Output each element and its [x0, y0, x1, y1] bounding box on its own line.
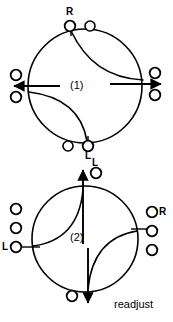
label-r-circle2-right: R [159, 207, 166, 217]
label-l-circle2-top: L [92, 158, 98, 168]
node-g2-top-1 [91, 168, 102, 179]
diagram-graphic [0, 0, 173, 322]
figure-canvas: R (1) L L L R (2) readjust [0, 0, 173, 322]
node-g2-right-2 [147, 226, 158, 237]
node-g1-right-2 [150, 90, 161, 101]
node-g1-left-2 [11, 92, 22, 103]
group-1-arc-top-to-right [71, 31, 143, 80]
group-2-shape [22, 170, 147, 303]
group-1-label: (1) [70, 80, 83, 91]
group-2-boundary-circle [32, 186, 138, 292]
node-g2-left-2 [11, 223, 22, 234]
label-l-circle1-bottom: L [85, 151, 91, 161]
label-r-circle1-top: R [66, 7, 73, 17]
node-g2-left-l [11, 242, 22, 253]
readjust-caption: readjust [114, 299, 153, 310]
node-g2-right-r [147, 207, 158, 218]
group-1-shape [14, 22, 161, 152]
node-g1-bottom-1 [63, 141, 73, 151]
node-g2-left-1 [11, 204, 22, 215]
node-g1-left-1 [11, 70, 22, 81]
node-g2-bottom-1 [67, 291, 78, 302]
label-l-circle2-left: L [2, 242, 8, 252]
group-2-arc-right-to-bottom [88, 231, 137, 289]
node-g2-right-3 [147, 245, 158, 256]
group-2-label: (2) [70, 232, 83, 243]
node-g1-top-2 [85, 21, 95, 31]
node-g1-right-1 [150, 68, 161, 79]
node-g1-top-r [65, 21, 76, 32]
